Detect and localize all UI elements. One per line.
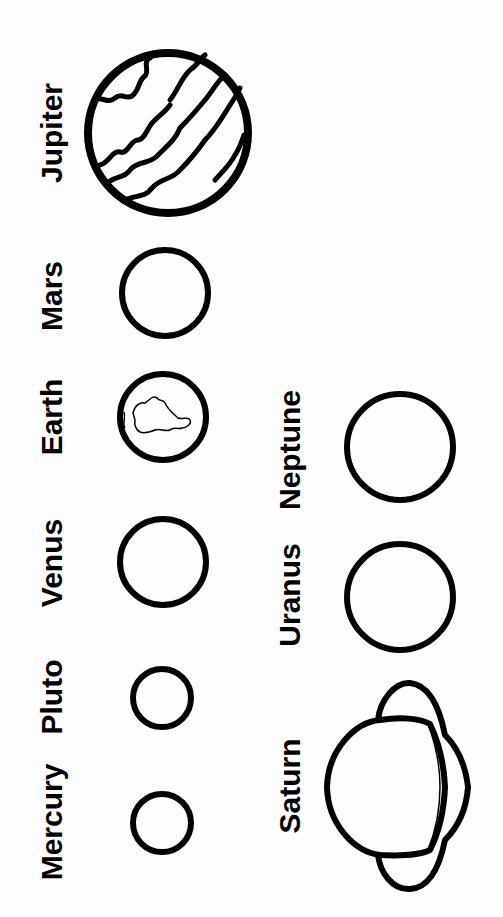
venus-label: Venus [37, 519, 67, 607]
planets-coloring-page: Jupiter Mars Earth Venus Pluto Mercury N… [0, 0, 503, 917]
pluto-label: Pluto [37, 660, 67, 735]
earth-label: Earth [37, 379, 67, 456]
saturn-label: Saturn [275, 738, 305, 833]
mars-label: Mars [37, 261, 67, 331]
jupiter-label: Jupiter [37, 83, 67, 183]
saturn-drawing [327, 683, 468, 889]
mars-drawing [122, 250, 208, 336]
venus-drawing [120, 519, 206, 605]
mercury-label: Mercury [37, 764, 67, 881]
pluto-drawing [133, 669, 191, 727]
earth-drawing [120, 374, 206, 460]
neptune-label: Neptune [275, 390, 305, 510]
uranus-drawing [347, 544, 453, 650]
uranus-label: Uranus [275, 543, 305, 646]
mercury-drawing [133, 794, 191, 852]
neptune-drawing [347, 394, 453, 500]
planet-drawings [0, 0, 503, 917]
jupiter-drawing [88, 53, 248, 213]
